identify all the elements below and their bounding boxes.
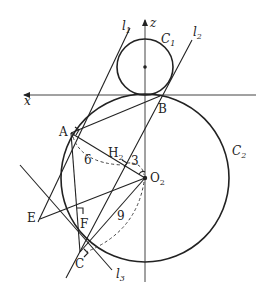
- segment-ac: [71, 133, 80, 252]
- x-axis-label: x: [24, 94, 31, 108]
- point-h2-label: H2: [108, 146, 124, 162]
- l1-label: l1: [122, 19, 131, 35]
- l3-label: l3: [116, 267, 125, 283]
- measure-arc-9: [86, 182, 144, 252]
- measure-3-label: 3: [131, 154, 139, 168]
- point-o2-label: O2: [150, 171, 165, 187]
- line-l1: [38, 28, 130, 222]
- point-f-label: F: [80, 217, 88, 231]
- z-axis-label: z: [149, 16, 157, 30]
- right-angle-f: [77, 208, 83, 214]
- segment-ab: [71, 96, 160, 133]
- c1-label: C1: [161, 32, 175, 48]
- measure-6-label: 6: [84, 153, 92, 167]
- point-e-label: E: [27, 211, 36, 225]
- point-c-label: C: [75, 257, 84, 271]
- geometry-diagram: x z C1 C2 l1 l2 l3 A B C E F H2 O2 6 3 9: [0, 0, 266, 295]
- c2-label: C2: [232, 144, 246, 160]
- l2-label: l2: [193, 25, 202, 41]
- right-angle-c: [84, 249, 88, 257]
- point-b-label: B: [158, 102, 167, 116]
- point-a-label: A: [58, 125, 68, 139]
- o2-point: [143, 176, 147, 180]
- c1-center-dot: [143, 65, 147, 69]
- measure-9-label: 9: [117, 209, 125, 223]
